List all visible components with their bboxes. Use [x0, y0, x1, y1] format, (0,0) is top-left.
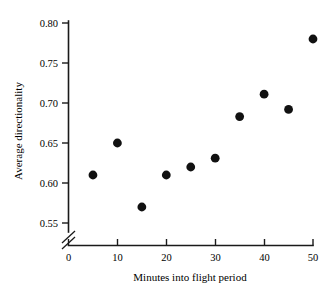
scatter-chart-figure: 0.80 0.75 0.70 0.65 0.60 0.55 Average di…: [0, 0, 331, 294]
data-point: [235, 112, 244, 121]
x-axis-ticks: [69, 239, 314, 246]
y-tick-label-0.80: 0.80: [40, 18, 58, 29]
x-tick-label-0: 0: [66, 252, 71, 263]
x-axis-tick-labels: 0 10 20 30 40 50: [66, 252, 318, 263]
x-tick-label-50: 50: [308, 252, 319, 263]
data-point: [162, 171, 171, 180]
chart-canvas: 0.80 0.75 0.70 0.65 0.60 0.55 Average di…: [0, 0, 331, 294]
y-tick-label-0.55: 0.55: [40, 218, 58, 229]
y-tick-label-0.70: 0.70: [40, 98, 58, 109]
data-point: [113, 139, 122, 148]
data-point: [284, 105, 293, 114]
x-tick-label-30: 30: [210, 252, 221, 263]
data-point: [260, 90, 269, 99]
y-tick-label-0.75: 0.75: [40, 58, 58, 69]
y-axis-title: Average directionality: [12, 82, 24, 180]
data-point: [137, 203, 146, 212]
x-tick-label-10: 10: [112, 252, 123, 263]
x-tick-label-20: 20: [161, 252, 172, 263]
data-point: [309, 35, 318, 44]
y-axis: 0.80 0.75 0.70 0.65 0.60 0.55 Average di…: [12, 18, 75, 250]
x-axis-title: Minutes into flight period: [133, 271, 247, 283]
y-axis-tick-labels: 0.80 0.75 0.70 0.65 0.60 0.55: [40, 18, 58, 229]
data-point: [186, 163, 195, 172]
x-tick-label-40: 40: [259, 252, 270, 263]
data-series-scatter: [89, 35, 318, 212]
data-point: [89, 171, 98, 180]
data-point: [211, 154, 220, 163]
y-tick-label-0.60: 0.60: [40, 178, 58, 189]
y-axis-ticks: [62, 23, 69, 223]
y-tick-label-0.65: 0.65: [40, 138, 58, 149]
x-axis: 0 10 20 30 40 50 Minutes into flight per…: [66, 239, 318, 283]
